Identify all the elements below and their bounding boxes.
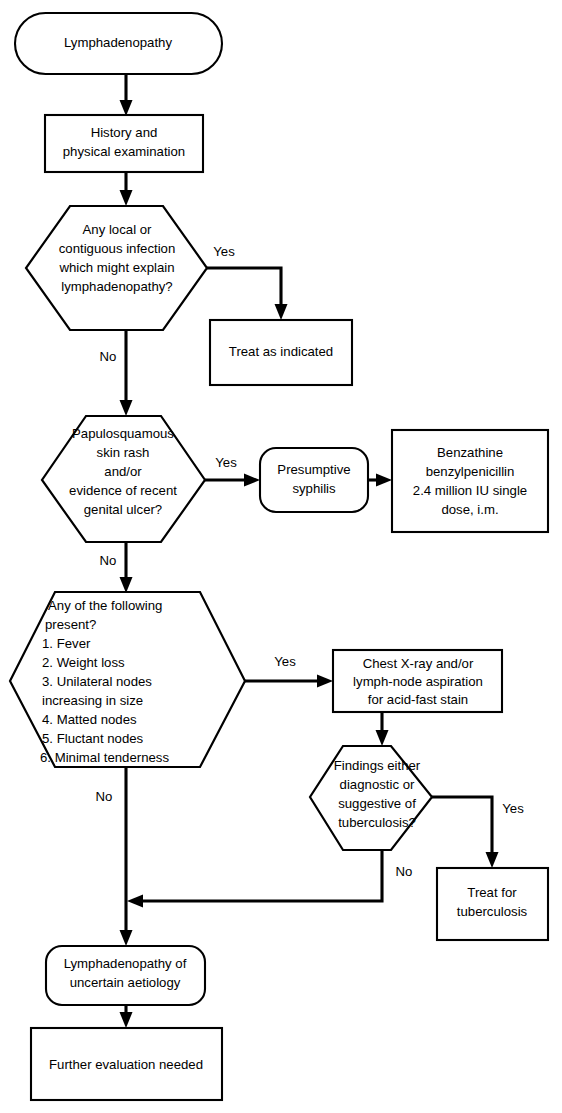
connector-rash-yes — [205, 474, 260, 487]
node-rash-line3: and/or — [104, 464, 142, 479]
node-further-evaluation-needed[interactable]: Further evaluation needed — [31, 1028, 222, 1100]
node-rash-line4: evidence of recent — [69, 483, 177, 498]
edge-label-tb-no: No — [396, 864, 413, 879]
node-infection-line1: Any local or — [83, 222, 153, 237]
node-signs-item-2: 2. Weight loss — [42, 655, 125, 670]
node-chest-xray-aspiration[interactable]: Chest X-ray and/or lymph-node aspiration… — [333, 650, 502, 712]
connector-signs-no — [120, 767, 133, 946]
node-rash-line2: skin rash — [97, 445, 150, 460]
node-decision-rash[interactable]: Papulosquamous skin rash and/or evidence… — [42, 416, 205, 542]
node-infection-line2: contiguous infection — [59, 241, 176, 256]
flowchart-diagram: Lymphadenopathy History and physical exa… — [0, 0, 562, 1113]
node-signs-item-3: 3. Unilateral nodes — [42, 674, 152, 689]
node-benzathine-benzylpenicillin[interactable]: Benzathine benzylpenicillin 2.4 million … — [392, 430, 548, 532]
connector-history-to-infection — [120, 172, 133, 206]
edge-label-infection-yes: Yes — [213, 244, 235, 259]
node-decision-tuberculosis[interactable]: Findings either diagnostic or suggestive… — [310, 746, 432, 850]
connector-tb-no — [127, 850, 382, 908]
node-uncertain-line1: Lymphadenopathy of — [64, 956, 187, 971]
node-signs-item-1: 1. Fever — [42, 636, 91, 651]
connector-syphilis-to-benzathine — [368, 474, 392, 487]
edge-label-rash-no: No — [100, 553, 117, 568]
node-treat-tb-line2: tuberculosis — [457, 904, 528, 919]
node-signs-item-5: 5. Fluctant nodes — [42, 731, 144, 746]
connector-xray-to-tb — [376, 712, 389, 746]
node-uncertain-line2: uncertain aetiology — [70, 975, 181, 990]
node-treat-indicated-label: Treat as indicated — [229, 344, 333, 359]
node-treat-for-tuberculosis[interactable]: Treat for tuberculosis — [437, 868, 548, 940]
node-tb-line1: Findings either — [334, 758, 421, 773]
node-signs-item-6: 6. Minimal tenderness — [40, 750, 169, 765]
node-tb-line4: tuberculosis? — [338, 815, 416, 830]
node-history-physical-exam[interactable]: History and physical examination — [45, 115, 203, 172]
node-start-lymphadenopathy[interactable]: Lymphadenopathy — [15, 13, 222, 74]
node-signs-item-3-cont: increasing in size — [42, 693, 143, 708]
node-history-line2: physical examination — [63, 144, 185, 159]
node-signs-heading2: present? — [45, 617, 96, 632]
node-xray-line1: Chest X-ray and/or — [363, 656, 474, 671]
node-syphilis-line2: syphilis — [292, 481, 336, 496]
node-xray-line3: for acid-fast stain — [368, 692, 468, 707]
node-history-line1: History and — [91, 125, 158, 140]
node-syphilis-line1: Presumptive — [277, 462, 350, 477]
node-benzathine-line2: benzylpenicillin — [426, 464, 515, 479]
node-xray-line2: lymph-node aspiration — [353, 674, 483, 689]
node-presumptive-syphilis[interactable]: Presumptive syphilis — [260, 448, 368, 512]
node-infection-line4: lymphadenopathy? — [61, 279, 172, 294]
flowchart-canvas: Lymphadenopathy History and physical exa… — [0, 0, 562, 1113]
node-rash-line5: genital ulcer? — [84, 502, 162, 517]
node-benzathine-line4: dose, i.m. — [441, 502, 498, 517]
edge-label-signs-no: No — [96, 789, 113, 804]
edge-label-infection-no: No — [100, 349, 117, 364]
connector-signs-yes — [245, 675, 333, 688]
node-benzathine-line3: 2.4 million IU single — [413, 483, 527, 498]
node-signs-heading1: Any of the following — [48, 598, 162, 613]
node-treat-as-indicated[interactable]: Treat as indicated — [210, 320, 352, 385]
node-further-eval-label: Further evaluation needed — [49, 1057, 203, 1072]
node-decision-signs[interactable]: Any of the following present? 1. Fever 2… — [10, 592, 245, 767]
node-rash-line1: Papulosquamous — [72, 426, 174, 441]
connector-tb-yes — [432, 797, 499, 868]
connector-infection-yes — [207, 268, 288, 320]
node-benzathine-line1: Benzathine — [437, 445, 503, 460]
connector-uncertain-to-further — [120, 1005, 133, 1028]
edge-label-tb-yes: Yes — [502, 801, 524, 816]
node-signs-item-4: 4. Matted nodes — [42, 712, 137, 727]
node-uncertain-aetiology[interactable]: Lymphadenopathy of uncertain aetiology — [46, 946, 205, 1005]
node-start-label: Lymphadenopathy — [64, 35, 172, 50]
node-treat-tb-line1: Treat for — [467, 885, 517, 900]
edge-label-signs-yes: Yes — [274, 654, 296, 669]
connector-rash-no — [120, 542, 133, 593]
node-tb-line3: suggestive of — [338, 796, 416, 811]
node-tb-line2: diagnostic or — [340, 777, 415, 792]
node-decision-infection[interactable]: Any local or contiguous infection which … — [26, 206, 207, 330]
connector-start-to-history — [120, 74, 133, 116]
node-infection-line3: which might explain — [58, 260, 174, 275]
connector-infection-no — [120, 330, 133, 416]
edge-label-rash-yes: Yes — [215, 455, 237, 470]
